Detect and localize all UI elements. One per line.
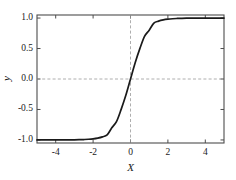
chart-figure: -1.0-0.50.00.51.0 -4-2024 y X [0, 0, 236, 180]
y-tick-label-1: -0.5 [18, 105, 33, 115]
y-tick-label-2: 0.0 [21, 74, 33, 84]
x-tick-label-4: 4 [203, 148, 208, 158]
y-tick-label-3: 0.5 [21, 44, 33, 54]
x-tick-label-0: -4 [52, 148, 60, 158]
y-tick-label-0: -1.0 [18, 135, 33, 145]
y-axis-title: y [1, 76, 12, 81]
x-tick-label-3: 2 [166, 148, 171, 158]
plot-canvas [0, 0, 236, 180]
x-tick-label-2: 0 [128, 148, 133, 158]
x-tick-label-1: -2 [89, 148, 97, 158]
y-tick-label-4: 1.0 [21, 13, 33, 23]
x-axis-title: X [127, 162, 134, 173]
